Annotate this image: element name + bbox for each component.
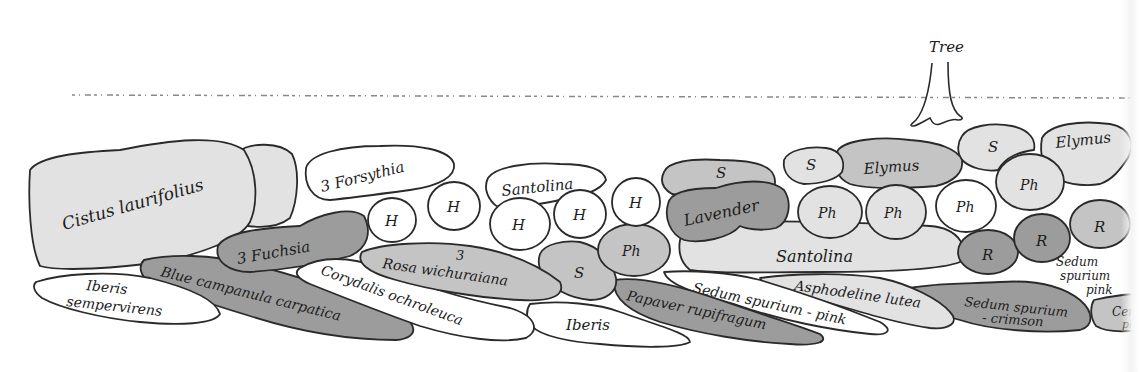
label-h2: H [446, 198, 461, 216]
label-s3: S [806, 156, 816, 174]
label-iberis-2: Iberis [565, 316, 610, 334]
label-sedum-pink-2c: pink [1086, 283, 1113, 297]
label-h1: H [384, 212, 399, 230]
tree-label: Tree [929, 38, 964, 56]
label-ph3: Ph [883, 205, 902, 221]
label-santolina-2: Santolina [776, 247, 853, 266]
label-h5: H [628, 194, 643, 212]
label-h3: H [511, 216, 526, 234]
page-edge-shadow [1121, 0, 1139, 372]
label-r3: R [1093, 218, 1105, 236]
label-s1: S [574, 264, 584, 282]
label-s4: S [988, 138, 998, 156]
tree-icon [911, 62, 962, 126]
label-sedum-pink-2b: spurium [1060, 269, 1110, 283]
garden-planting-plan: Tree Elymus S Elymus S Santolina S Laven… [0, 0, 1139, 372]
label-r2: R [1035, 232, 1047, 250]
label-r1: R [981, 246, 993, 264]
boundary-line [72, 95, 1139, 98]
label-h4: H [572, 206, 587, 224]
label-ph4: Ph [955, 199, 974, 215]
label-ph2: Ph [817, 205, 836, 221]
label-s2: S [716, 164, 726, 182]
label-sedum-pink-2a: Sedum [1056, 255, 1098, 269]
label-rosa-count: 3 [456, 248, 464, 263]
label-ph5: Ph [1019, 177, 1038, 193]
label-ph1: Ph [621, 243, 640, 259]
